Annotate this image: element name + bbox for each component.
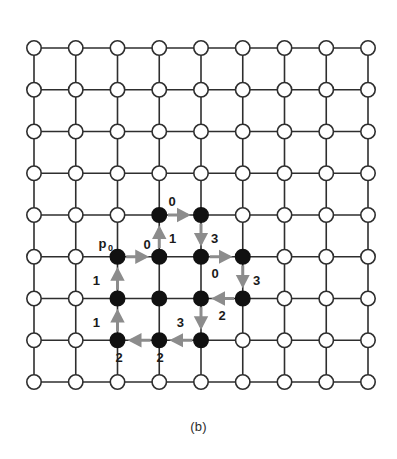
grid-node-open: [236, 83, 250, 97]
grid-node-open: [27, 375, 41, 389]
grid-node-open: [319, 250, 333, 264]
grid-node-open: [69, 208, 83, 222]
boundary-node-filled: [152, 208, 166, 222]
grid-node-open: [277, 124, 291, 138]
grid-node-open: [152, 375, 166, 389]
figure-caption: (b): [0, 419, 397, 434]
chain-code-digit: 1: [169, 231, 176, 246]
grid-node-open: [319, 41, 333, 55]
boundary-node-filled: [194, 208, 208, 222]
grid-node-open: [236, 375, 250, 389]
grid-node-open: [69, 83, 83, 97]
grid-node-open: [361, 208, 375, 222]
grid-node-open: [194, 83, 208, 97]
start-point-p0: p: [99, 236, 107, 251]
chain-code-digit: 2: [156, 350, 163, 365]
chain-code-digit: 3: [177, 315, 184, 330]
grid-node-open: [236, 208, 250, 222]
grid-node-open: [110, 208, 124, 222]
grid-node-open: [27, 83, 41, 97]
grid-node-open: [69, 375, 83, 389]
chain-code-digit: 0: [143, 237, 150, 252]
grid-node-open: [277, 250, 291, 264]
grid-node-open: [69, 291, 83, 305]
grid-node-open: [110, 41, 124, 55]
chain-code-digit: 0: [168, 194, 175, 209]
grid-node-open: [110, 166, 124, 180]
grid-node-open: [27, 124, 41, 138]
grid-node-open: [194, 166, 208, 180]
grid-node-open: [277, 208, 291, 222]
chain-code-digit: 3: [211, 231, 218, 246]
grid-node-open: [236, 166, 250, 180]
grid-node-open: [361, 291, 375, 305]
grid-node-open: [236, 41, 250, 55]
grid-node-open: [277, 333, 291, 347]
grid-node-open: [27, 41, 41, 55]
grid-node-open: [69, 41, 83, 55]
boundary-node-filled: [152, 291, 166, 305]
grid-node-open: [277, 83, 291, 97]
grid-node-open: [236, 333, 250, 347]
grid-nodes: [27, 41, 375, 389]
boundary-node-filled: [110, 291, 124, 305]
chain-code-digit: 1: [93, 315, 100, 330]
grid-node-open: [69, 124, 83, 138]
grid-node-open: [69, 250, 83, 264]
grid-node-open: [194, 124, 208, 138]
grid-node-open: [27, 250, 41, 264]
boundary-node-filled: [152, 333, 166, 347]
boundary-node-filled: [194, 333, 208, 347]
chain-code-digit: 3: [253, 273, 260, 288]
grid-node-open: [27, 166, 41, 180]
grid-node-open: [361, 83, 375, 97]
grid-node-open: [110, 375, 124, 389]
grid-node-open: [277, 41, 291, 55]
grid-node-open: [319, 291, 333, 305]
grid-node-open: [319, 375, 333, 389]
grid-node-open: [319, 333, 333, 347]
chain-code-digit: 2: [115, 350, 122, 365]
grid-node-open: [361, 41, 375, 55]
grid-node-open: [319, 83, 333, 97]
grid-node-open: [27, 291, 41, 305]
start-point-subscript: 0: [108, 243, 113, 253]
grid-node-open: [110, 124, 124, 138]
grid-node-open: [152, 83, 166, 97]
grid-node-open: [27, 208, 41, 222]
grid-node-open: [194, 41, 208, 55]
start-point-label: p0: [99, 236, 113, 254]
chain-code-digit: 1: [93, 273, 100, 288]
grid-node-open: [361, 166, 375, 180]
grid-node-open: [27, 333, 41, 347]
grid-node-open: [277, 375, 291, 389]
grid-node-open: [69, 333, 83, 347]
boundary-node-filled: [236, 291, 250, 305]
grid-node-open: [319, 166, 333, 180]
grid-node-open: [319, 208, 333, 222]
boundary-node-filled: [152, 250, 166, 264]
grid-node-open: [361, 124, 375, 138]
boundary-node-filled: [194, 291, 208, 305]
grid-node-open: [152, 166, 166, 180]
boundary-node-filled: [236, 250, 250, 264]
boundary-node-filled: [194, 250, 208, 264]
grid-node-open: [152, 41, 166, 55]
chain-code-diagram: 010303232211 p0: [0, 0, 397, 459]
grid-node-open: [69, 166, 83, 180]
grid-node-open: [277, 291, 291, 305]
grid-node-open: [361, 333, 375, 347]
grid-node-open: [319, 124, 333, 138]
grid-node-open: [361, 250, 375, 264]
grid-node-open: [361, 375, 375, 389]
boundary-node-filled: [110, 333, 124, 347]
figure-container: 010303232211 p0 (b): [0, 0, 397, 459]
chain-code-digit: 2: [218, 308, 225, 323]
grid-node-open: [194, 375, 208, 389]
grid-node-open: [110, 83, 124, 97]
grid-node-open: [236, 124, 250, 138]
chain-code-digit: 0: [211, 266, 218, 281]
grid-node-open: [277, 166, 291, 180]
grid-node-open: [152, 124, 166, 138]
